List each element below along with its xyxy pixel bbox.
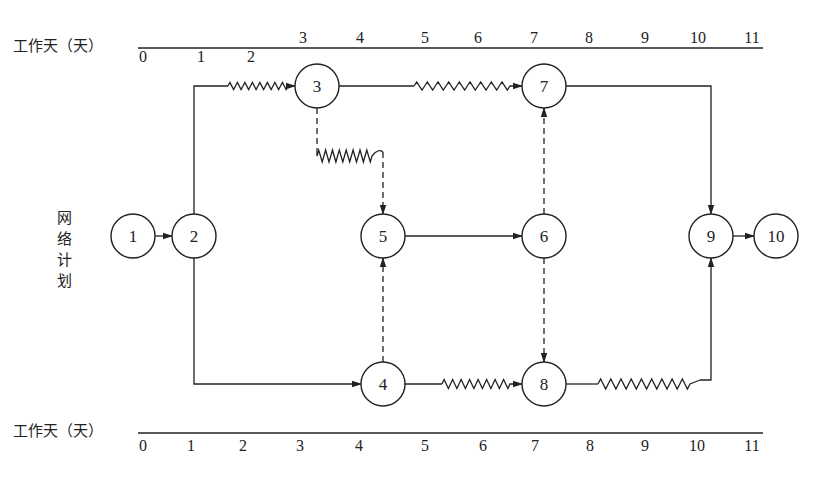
free-float-3-7 (414, 82, 522, 90)
top-axis-tick-label: 7 (530, 29, 538, 46)
bottom-axis-tick-label: 5 (421, 437, 429, 454)
top-axis-tick-label: 8 (585, 29, 593, 46)
time-scaled-network-diagram: 01234567891011 01234567891011 (0, 0, 824, 488)
node-1: 1 (111, 214, 155, 258)
bottom-axis-ticks: 01234567891011 (139, 437, 760, 454)
bottom-axis-tick-label: 1 (187, 437, 195, 454)
node-4: 4 (361, 362, 405, 406)
node-label: 5 (379, 227, 388, 246)
node-label: 9 (707, 227, 716, 246)
node-9: 9 (689, 214, 733, 258)
top-axis-tick-label: 5 (421, 29, 429, 46)
node-label: 6 (540, 227, 549, 246)
bottom-axis-tick-label: 8 (586, 437, 594, 454)
edge-8-9-up (700, 258, 711, 380)
node-label: 1 (129, 227, 138, 246)
edge-2-3 (194, 86, 228, 214)
node-2: 2 (172, 214, 216, 258)
node-6: 6 (522, 214, 566, 258)
free-float-3-5 (317, 150, 383, 162)
node-10: 10 (754, 214, 798, 258)
top-axis-tick-label: 0 (139, 48, 147, 65)
node-label: 2 (190, 227, 199, 246)
bottom-axis-tick-label: 4 (355, 437, 363, 454)
free-float-8-9 (598, 379, 700, 389)
nodes: 12345678910 (111, 64, 798, 406)
bottom-axis-tick-label: 9 (641, 437, 649, 454)
top-axis-tick-label: 6 (474, 29, 482, 46)
free-float-4-8 (442, 380, 522, 389)
top-axis-tick-label: 2 (247, 48, 255, 65)
bottom-axis-tick-label: 7 (531, 437, 539, 454)
bottom-axis-tick-label: 11 (744, 437, 759, 454)
top-axis-tick-label: 1 (197, 48, 205, 65)
edge-2-4 (194, 258, 361, 384)
top-axis-tick-label: 10 (690, 29, 706, 46)
bottom-axis-tick-label: 6 (479, 437, 487, 454)
node-label: 8 (540, 375, 549, 394)
edges (155, 82, 754, 389)
bottom-axis-tick-label: 2 (239, 437, 247, 454)
top-axis-tick-label: 4 (356, 29, 364, 46)
free-float-2-3 (228, 83, 295, 90)
bottom-axis-tick-label: 3 (296, 437, 304, 454)
node-7: 7 (522, 64, 566, 108)
top-axis-tick-label: 3 (299, 29, 307, 46)
node-label: 7 (540, 77, 549, 96)
node-label: 3 (313, 77, 322, 96)
edge-7-9 (566, 86, 711, 214)
node-label: 10 (768, 227, 785, 246)
node-3: 3 (295, 64, 339, 108)
node-8: 8 (522, 362, 566, 406)
bottom-axis-tick-label: 10 (689, 437, 705, 454)
top-axis-ticks: 01234567891011 (139, 29, 760, 65)
top-axis-tick-label: 9 (641, 29, 649, 46)
bottom-axis-tick-label: 0 (139, 437, 147, 454)
top-axis-tick-label: 11 (744, 29, 759, 46)
node-5: 5 (361, 214, 405, 258)
node-label: 4 (379, 375, 388, 394)
